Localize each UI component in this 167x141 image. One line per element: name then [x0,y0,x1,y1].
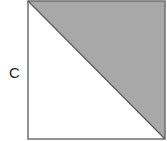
square-diagonal-diagram [0,0,167,141]
side-label-c: C [9,64,20,81]
